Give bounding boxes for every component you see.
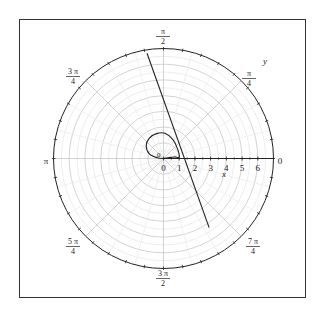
svg-text:π: π	[161, 27, 165, 36]
svg-text:0: 0	[278, 156, 283, 166]
angle-label-5pi-4: 5 π4	[66, 237, 80, 256]
grid-radial-line	[68, 104, 163, 159]
angle-label-3pi-2: 3 π2	[156, 269, 170, 288]
grid-radial-line	[86, 81, 164, 159]
angular-tick	[270, 139, 273, 140]
svg-text:3 π: 3 π	[68, 67, 78, 76]
radial-tick-label: 5	[240, 163, 245, 173]
svg-text:5 π: 5 π	[68, 237, 78, 246]
grid-radial-line	[86, 159, 164, 237]
y-axis-label: y	[262, 56, 267, 66]
svg-text:3 π: 3 π	[158, 269, 168, 278]
angle-label-pi-2: π2	[156, 27, 170, 46]
angular-tick	[265, 120, 268, 121]
grid-radial-line	[164, 159, 192, 265]
angular-tick	[265, 195, 268, 196]
angular-tick	[182, 265, 183, 268]
angular-tick	[59, 195, 62, 196]
angular-tick	[182, 49, 183, 52]
grid-radial-line	[57, 130, 163, 158]
angular-tick	[200, 260, 201, 263]
x-axis-label: x	[221, 169, 226, 179]
svg-text:2: 2	[161, 279, 165, 288]
radial-tick-label: 2	[193, 163, 198, 173]
angle-label-0: 0	[278, 156, 283, 166]
svg-text:4: 4	[251, 247, 255, 256]
angular-tick	[59, 120, 62, 121]
angular-tick	[144, 49, 145, 52]
angle-label-pi-4: π4	[242, 69, 256, 88]
polar-plot: 0123456 0π4π23 π4π5 π43 π27 π4 x y 0	[0, 0, 325, 315]
angle-label-7pi-4: 7 π4	[246, 237, 260, 256]
grid-radial-line	[68, 159, 163, 214]
grid-radial-line	[164, 63, 219, 158]
angle-label-3pi-4: 3 π4	[66, 67, 80, 86]
svg-text:4: 4	[71, 247, 75, 256]
data-series	[146, 53, 209, 227]
grid-radial-line	[135, 159, 163, 265]
radial-tick-label: 3	[208, 163, 213, 173]
angular-tick	[200, 54, 201, 57]
svg-text:2: 2	[161, 37, 165, 46]
svg-text:π: π	[44, 156, 49, 166]
grid-radial-line	[135, 52, 163, 158]
svg-text:π: π	[247, 69, 251, 78]
grid-radial-line	[164, 159, 219, 254]
svg-text:4: 4	[247, 79, 251, 88]
origin-radial-label: 0	[157, 151, 161, 159]
grid-radial-line	[164, 159, 242, 237]
straight-line	[147, 53, 209, 227]
radial-tick-label: 0	[161, 163, 166, 173]
angular-tick	[270, 177, 273, 178]
grid-radial-line	[109, 159, 164, 254]
angle-label-pi: π	[44, 156, 49, 166]
angular-tick	[125, 54, 126, 57]
svg-text:4: 4	[71, 77, 75, 86]
grid-radial-line	[57, 159, 163, 187]
angular-tick	[144, 265, 145, 268]
angular-tick	[54, 139, 57, 140]
radial-tick-label: 6	[256, 163, 261, 173]
angular-tick	[125, 260, 126, 263]
angular-tick	[54, 177, 57, 178]
grid-radial-line	[164, 52, 192, 158]
grid-radial-line	[164, 81, 242, 159]
svg-text:7 π: 7 π	[248, 237, 258, 246]
radial-tick-label: 1	[177, 163, 182, 173]
